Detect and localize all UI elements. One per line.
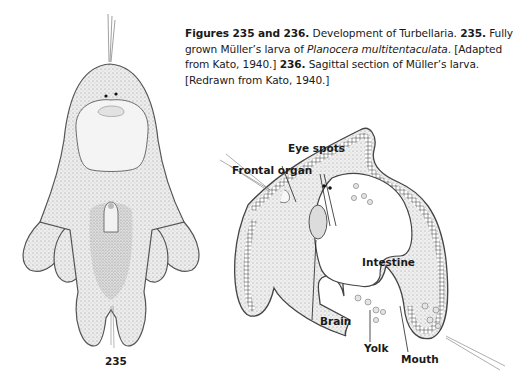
larva-body [23, 64, 199, 348]
label-frontal-organ: Frontal organ [232, 164, 312, 176]
caption-fig236-number: 236. [280, 58, 306, 70]
caption-fig235-number: 235. [460, 27, 486, 39]
label-brain: Brain [320, 315, 351, 327]
figure-235-larva-drawing: 235 [0, 0, 230, 383]
eye-spot-right [328, 186, 332, 190]
figure-caption: Figures 235 and 236. Development of Turb… [185, 26, 515, 88]
eye-spot-left [104, 94, 107, 97]
larva-illustration [0, 0, 230, 383]
label-eye-spots: Eye spots [288, 142, 345, 154]
caption-intro: Development of Turbellaria. [309, 27, 460, 39]
label-yolk: Yolk [364, 342, 388, 354]
label-mouth: Mouth [401, 353, 439, 365]
figure-235-number: 235 [105, 355, 127, 367]
apical-tuft [108, 14, 115, 62]
label-intestine: Intestine [362, 256, 415, 268]
figure-236-section-drawing: Eye spots Frontal organ Intestine Brain … [220, 110, 517, 383]
brain-structure [309, 205, 327, 239]
eye-spot-right [114, 92, 117, 95]
caption-species-name: Planocera multitentaculata [307, 43, 448, 55]
